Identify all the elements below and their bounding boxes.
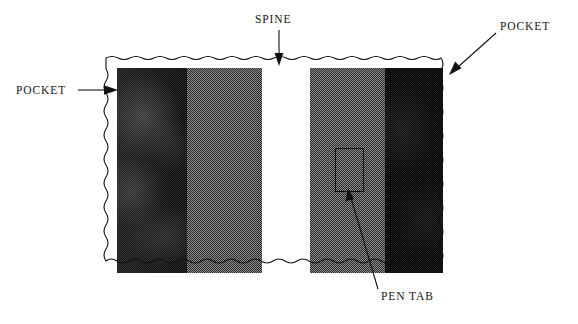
label-pen-tab: PEN TAB xyxy=(381,290,434,302)
pocket-right-leader-line xyxy=(458,33,496,67)
label-pocket-left: POCKET xyxy=(16,84,66,96)
pen-tab-leader-line xyxy=(351,198,378,289)
leader-line-layer xyxy=(0,0,578,324)
pocket-right-arrowhead xyxy=(449,62,462,75)
label-pocket-right: POCKET xyxy=(500,20,550,32)
spine-arrowhead xyxy=(275,53,284,66)
figure-canvas: SPINE POCKET POCKET PEN TAB xyxy=(0,0,578,324)
label-spine: SPINE xyxy=(255,13,291,25)
photo-wavy-border xyxy=(104,57,443,264)
pen-tab-arrowhead xyxy=(345,188,354,202)
pocket-left-arrowhead xyxy=(104,85,118,95)
